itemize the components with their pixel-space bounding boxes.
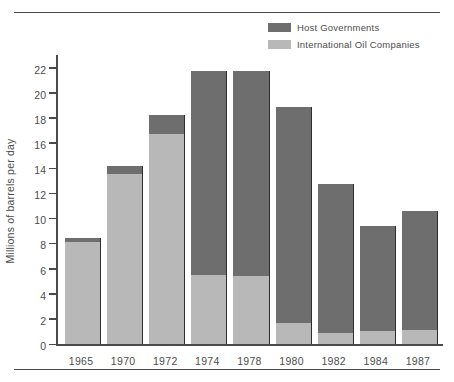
stacked-bar-chart-figure: Host Governments International Oil Compa… [0, 0, 454, 382]
y-tick-label: 16 [20, 139, 46, 151]
plot-area: Millions of barrels per day 024681012141… [56, 55, 441, 346]
bar-segment-host-governments [107, 166, 142, 175]
x-axis-line [56, 344, 443, 346]
bar-segment-international-oil-companies [107, 174, 142, 344]
bar-1980[interactable] [276, 107, 312, 344]
x-tick-label-1978: 1978 [231, 355, 267, 367]
bar-series-group [58, 55, 441, 344]
bottom-divider-rule [14, 369, 440, 370]
bar-segment-international-oil-companies [149, 134, 184, 344]
x-tick-label-1972: 1972 [147, 355, 183, 367]
y-tick-mark [49, 168, 56, 170]
x-tick-label-1965: 1965 [63, 355, 99, 367]
bar-1984[interactable] [360, 226, 396, 344]
bar-segment-host-governments [318, 184, 353, 332]
y-tick-label: 0 [20, 340, 46, 352]
bar-segment-host-governments [233, 71, 268, 276]
y-tick-label: 22 [20, 64, 46, 76]
bar-segment-host-governments [402, 211, 437, 330]
y-tick-label: 4 [20, 290, 46, 302]
bar-segment-international-oil-companies [318, 333, 353, 344]
y-tick-mark [49, 268, 56, 270]
bar-segment-host-governments [149, 115, 184, 134]
y-tick-label: 18 [20, 114, 46, 126]
bar-segment-host-governments [276, 107, 311, 323]
y-tick-mark [49, 92, 56, 94]
y-tick-mark [49, 344, 56, 346]
y-tick-mark [49, 218, 56, 220]
x-tick-label-1982: 1982 [316, 355, 352, 367]
y-tick-mark [49, 293, 56, 295]
bar-segment-international-oil-companies [191, 275, 226, 344]
y-tick-mark [49, 67, 56, 69]
bar-segment-host-governments [191, 71, 226, 275]
top-divider-rule [14, 12, 440, 13]
chart-legend: Host Governments International Oil Compa… [268, 20, 420, 54]
y-axis-title: Millions of barrels per day [4, 138, 16, 263]
x-tick-label-1987: 1987 [400, 355, 436, 367]
y-tick-label: 10 [20, 214, 46, 226]
bar-1970[interactable] [107, 166, 143, 344]
x-tick-label-1980: 1980 [274, 355, 310, 367]
bar-1974[interactable] [191, 71, 227, 344]
bar-segment-international-oil-companies [360, 331, 395, 344]
bar-segment-international-oil-companies [233, 276, 268, 344]
bar-1965[interactable] [65, 238, 101, 344]
legend-item-host-governments: Host Governments [268, 20, 420, 34]
x-tick-label-1970: 1970 [105, 355, 141, 367]
y-tick-label: 12 [20, 189, 46, 201]
y-tick-label: 14 [20, 164, 46, 176]
bar-1978[interactable] [233, 71, 269, 344]
bar-1982[interactable] [318, 184, 354, 344]
legend-label-host-governments: Host Governments [297, 22, 379, 33]
y-tick-label: 20 [20, 89, 46, 101]
legend-swatch-international-oil-companies [268, 40, 291, 49]
y-tick-mark [49, 142, 56, 144]
bar-segment-international-oil-companies [276, 323, 311, 344]
bar-1987[interactable] [402, 211, 438, 344]
legend-label-international-oil-companies: International Oil Companies [297, 39, 420, 50]
y-tick-mark [49, 193, 56, 195]
legend-item-international-oil-companies: International Oil Companies [268, 37, 420, 51]
y-tick-label: 8 [20, 239, 46, 251]
x-tick-label-1984: 1984 [358, 355, 394, 367]
y-tick-mark [49, 117, 56, 119]
y-tick-mark [49, 318, 56, 320]
x-tick-label-1974: 1974 [189, 355, 225, 367]
bar-segment-international-oil-companies [65, 242, 100, 344]
legend-swatch-host-governments [268, 23, 291, 32]
y-tick-label: 2 [20, 315, 46, 327]
bar-segment-host-governments [360, 226, 395, 332]
bar-segment-international-oil-companies [402, 330, 437, 344]
bar-1972[interactable] [149, 115, 185, 344]
y-tick-label: 6 [20, 265, 46, 277]
y-tick-mark [49, 243, 56, 245]
